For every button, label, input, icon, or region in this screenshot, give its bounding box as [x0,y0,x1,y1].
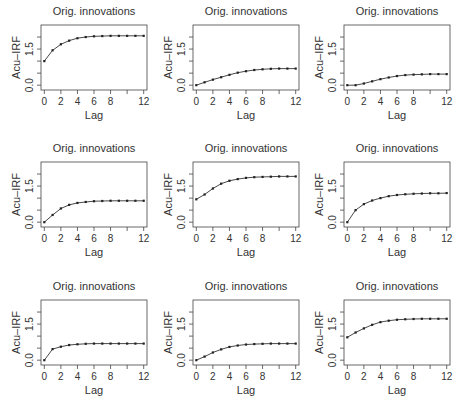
irf-panel-9: Orig. innovations0.01.5Acu–IRF0246812Lag [313,280,453,396]
data-point [404,193,406,195]
data-point [278,175,280,177]
irf-line [196,176,295,199]
x-axis-label: Lag [85,109,103,121]
plot-box [193,162,299,227]
data-point [388,320,390,322]
x-tick-label: 6 [91,233,97,244]
y-axis-label: Acu–IRF [313,311,325,354]
panel-title: Orig. innovations [53,280,136,292]
x-tick-label: 4 [378,233,384,244]
data-point [371,199,373,201]
data-point [446,318,448,320]
data-point [228,74,230,76]
data-point [220,348,222,350]
data-point [228,180,230,182]
data-point [76,37,78,39]
plot-box [193,300,299,365]
x-tick-label: 2 [210,233,216,244]
data-point [212,351,214,353]
irf-panel-2: Orig. innovations0.01.5Acu–IRF0246812Lag [162,5,302,121]
data-point [270,176,272,178]
x-axis-label: Lag [388,109,406,121]
x-tick-label: 8 [411,96,417,107]
x-axis-label: Lag [237,384,255,396]
y-axis-label: Acu–IRF [313,36,325,79]
data-point [68,40,70,42]
data-point [212,79,214,81]
data-point [412,73,414,75]
irf-line [196,344,295,361]
data-point [101,342,103,344]
x-tick-label: 6 [394,233,400,244]
data-point [143,200,145,202]
x-tick-label: 6 [243,96,249,107]
data-point [203,81,205,83]
x-tick-label: 4 [227,371,233,382]
panel-title: Orig. innovations [53,142,136,154]
x-tick-label: 8 [260,233,266,244]
data-point [295,67,297,69]
data-point [195,84,197,86]
panel-title: Orig. innovations [205,280,288,292]
x-axis-label: Lag [85,384,103,396]
x-tick-label: 6 [91,96,97,107]
data-point [126,35,128,37]
data-point [143,342,145,344]
x-tick-label: 4 [378,96,384,107]
x-tick-label: 12 [441,233,453,244]
data-point [101,35,103,37]
x-axis-label: Lag [85,246,103,258]
y-tick-label: 0.0 [327,353,338,367]
data-point [237,344,239,346]
data-point [85,343,87,345]
x-tick-label: 4 [75,96,81,107]
data-point [109,342,111,344]
y-axis-label: Acu–IRF [313,173,325,216]
x-tick-label: 2 [210,96,216,107]
data-point [437,73,439,75]
y-axis-label: Acu–IRF [10,311,22,354]
x-tick-label: 8 [108,233,114,244]
x-tick-label: 2 [361,233,367,244]
data-point [109,35,111,37]
data-point [354,331,356,333]
y-tick-label: 1.5 [24,42,35,56]
data-point [363,82,365,84]
data-point [261,176,263,178]
x-axis-label: Lag [388,246,406,258]
plot-box [193,25,299,90]
x-tick-label: 2 [58,233,64,244]
panel-title: Orig. innovations [356,280,439,292]
data-point [286,67,288,69]
data-point [51,348,53,350]
data-point [76,343,78,345]
data-point [371,80,373,82]
x-tick-label: 2 [58,371,64,382]
data-point [346,221,348,223]
plot-box [41,162,147,227]
plot-box [344,25,450,90]
data-point [379,78,381,80]
data-point [60,43,62,45]
x-tick-label: 12 [290,371,302,382]
x-tick-label: 8 [411,371,417,382]
data-point [220,76,222,78]
data-point [379,197,381,199]
irf-panel-4: Orig. innovations0.01.5Acu–IRF0246812Lag [10,142,150,258]
y-axis-label: Acu–IRF [162,36,174,79]
data-point [261,343,263,345]
data-point [379,321,381,323]
data-point [93,342,95,344]
data-point [286,175,288,177]
data-point [261,68,263,70]
data-point [118,35,120,37]
irf-panel-6: Orig. innovations0.01.5Acu–IRF0246812Lag [313,142,453,258]
data-point [278,67,280,69]
irf-line [347,193,446,222]
data-point [220,183,222,185]
data-point [388,76,390,78]
data-point [253,343,255,345]
x-tick-label: 12 [441,96,453,107]
y-tick-label: 0.0 [24,215,35,229]
data-point [134,342,136,344]
